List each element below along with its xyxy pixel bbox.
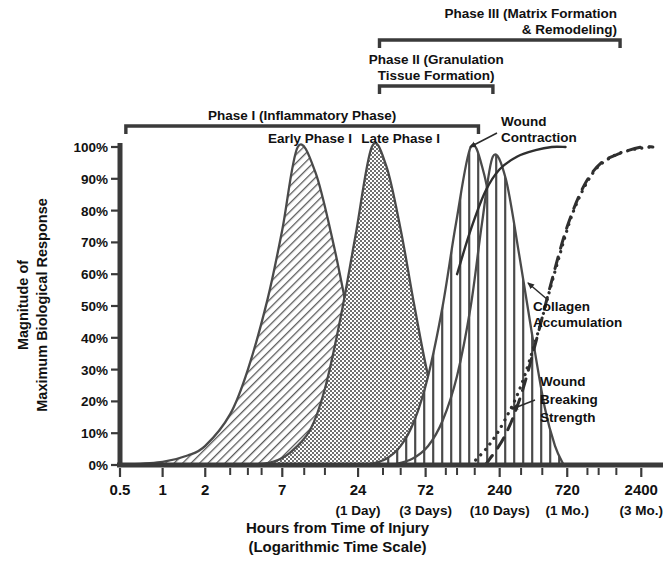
x-tick-label: 1 bbox=[158, 481, 166, 498]
x-axis-title-line1: Hours from Time of Injury bbox=[246, 519, 430, 536]
x-tick-label: 2400 bbox=[625, 481, 658, 498]
x-tick-label: 240 bbox=[487, 481, 512, 498]
wound-contraction-label-line2: Contraction bbox=[501, 130, 577, 145]
x-tick-label: 7 bbox=[278, 481, 286, 498]
phase-2-bracket bbox=[379, 86, 492, 94]
collagen-accumulation-leader bbox=[528, 283, 548, 300]
x-tick-sublabel: (1 Mo.) bbox=[545, 503, 589, 518]
wound-breaking-strength-label-line1: Wound bbox=[540, 374, 585, 389]
x-tick-label: 2 bbox=[201, 481, 209, 498]
phase-3-label-line1: Phase III (Matrix Formation bbox=[445, 6, 618, 21]
x-tick-sublabel: (3 Mo.) bbox=[620, 503, 664, 518]
y-tick-label: 30% bbox=[81, 363, 108, 378]
y-axis-title-line2: Maximum Biological Response bbox=[34, 198, 50, 412]
x-tick-label: 72 bbox=[417, 481, 434, 498]
chart-canvas: 0%10%20%30%40%50%60%70%80%90%100%0.51272… bbox=[0, 0, 665, 573]
x-axis-title-line2: (Logarithmic Time Scale) bbox=[248, 538, 426, 555]
wound-breaking-strength-label-line2: Breaking bbox=[540, 392, 598, 407]
x-tick-sublabel: (1 Day) bbox=[336, 503, 381, 518]
x-tick-sublabel: (3 Days) bbox=[399, 503, 452, 518]
phase-2-label-line2: Tissue Formation) bbox=[378, 68, 495, 83]
wound-contraction-label-line1: Wound bbox=[501, 114, 546, 129]
y-tick-label: 70% bbox=[81, 235, 108, 250]
y-axis-title-line1: Magnitude of bbox=[15, 260, 31, 350]
phase-2-label-line1: Phase II (Granulation bbox=[369, 52, 504, 67]
y-tick-label: 90% bbox=[81, 172, 108, 187]
early-phase-1-label: Early Phase I bbox=[268, 131, 352, 146]
wound-contraction-leader bbox=[470, 133, 497, 147]
y-tick-label: 40% bbox=[81, 331, 108, 346]
y-tick-label: 60% bbox=[81, 267, 108, 282]
y-tick-label: 10% bbox=[81, 426, 108, 441]
collagen-accumulation-label-line1: Collagen bbox=[533, 299, 590, 314]
x-tick-label: 0.5 bbox=[110, 481, 131, 498]
phase-3-bracket bbox=[379, 40, 620, 48]
x-tick-label: 24 bbox=[350, 481, 367, 498]
y-tick-label: 0% bbox=[88, 458, 108, 473]
collagen-accumulation-label-line2: Accumulation bbox=[533, 315, 622, 330]
y-tick-label: 20% bbox=[81, 394, 108, 409]
y-tick-label: 100% bbox=[73, 140, 108, 155]
phase-3-label-line2: & Remodeling) bbox=[522, 22, 617, 37]
late-phase-1-label: Late Phase I bbox=[361, 131, 440, 146]
y-tick-label: 80% bbox=[81, 204, 108, 219]
wound-breaking-strength-label-line3: Strength bbox=[540, 410, 596, 425]
series-areas bbox=[120, 143, 564, 465]
phase-1-label: Phase I (Inflammatory Phase) bbox=[208, 108, 396, 123]
y-tick-label: 50% bbox=[81, 299, 108, 314]
wound-healing-chart: 0%10%20%30%40%50%60%70%80%90%100%0.51272… bbox=[0, 0, 665, 573]
x-tick-label: 720 bbox=[555, 481, 580, 498]
x-tick-sublabel: (10 Days) bbox=[470, 503, 530, 518]
